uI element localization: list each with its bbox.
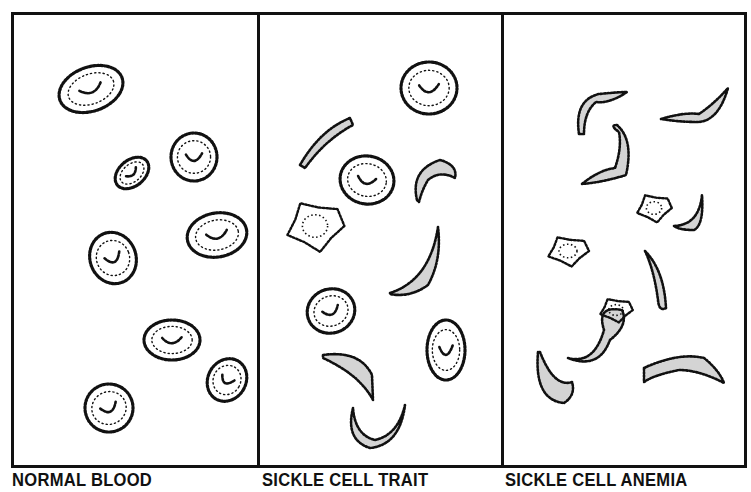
- sickle-cell: [323, 354, 373, 400]
- panel-sickle-cell-anemia: [504, 15, 741, 462]
- sickle-cell: [582, 125, 629, 184]
- red-blood-cell: [301, 282, 361, 340]
- sickle-cell: [538, 352, 573, 403]
- red-blood-cell: [200, 351, 255, 408]
- red-blood-cell: [184, 208, 251, 262]
- red-blood-cell: [82, 226, 143, 291]
- red-blood-cell: [401, 62, 457, 114]
- red-blood-cell: [144, 320, 200, 360]
- sickle-cell: [351, 405, 405, 448]
- irregular-cell: [548, 237, 589, 266]
- sickle-cell: [661, 88, 728, 122]
- sickle-cell: [300, 118, 353, 168]
- sickle-cell: [390, 227, 439, 295]
- sickle-cell: [644, 356, 724, 383]
- red-blood-cell: [427, 320, 465, 380]
- red-blood-cell: [109, 151, 155, 195]
- sickle-cell: [674, 195, 702, 230]
- red-blood-cell: [52, 57, 129, 121]
- sickle-cell: [416, 160, 456, 202]
- red-blood-cell: [78, 377, 140, 439]
- red-blood-cell: [336, 152, 398, 209]
- caption-sickle-cell-trait: SICKLE CELL TRAIT: [262, 470, 428, 491]
- caption-normal-blood: NORMAL BLOOD: [12, 470, 152, 491]
- caption-sickle-cell-anemia: SICKLE CELL ANEMIA: [505, 470, 688, 491]
- sickle-cell: [568, 309, 624, 361]
- panel-sickle-cell-trait: [260, 15, 501, 462]
- irregular-cell: [287, 203, 344, 252]
- sickle-cell: [645, 251, 666, 309]
- panel-normal-blood: [14, 15, 257, 462]
- irregular-cell: [637, 195, 672, 222]
- red-blood-cell: [171, 133, 217, 181]
